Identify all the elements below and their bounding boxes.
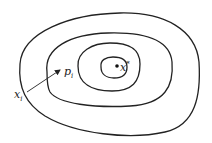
search-direction-arrow [27, 70, 60, 92]
minimizer-point [115, 64, 119, 68]
contour-plot-svg [0, 0, 212, 143]
direction-label: pi [64, 66, 73, 77]
minimizer-label: x* [120, 62, 130, 73]
contour-diagram: xi pi x* [0, 0, 212, 143]
iterate-label: xi [14, 89, 22, 100]
contour-third [78, 43, 140, 91]
